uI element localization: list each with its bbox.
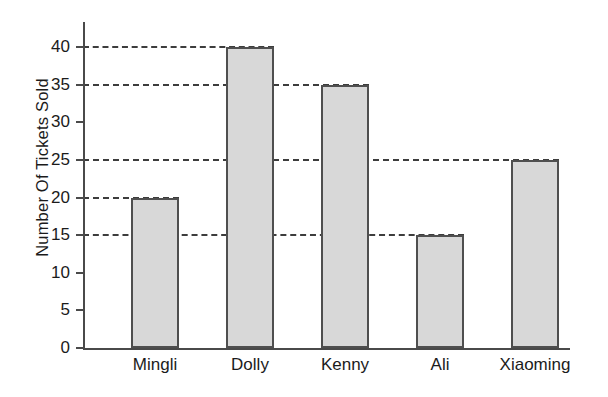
y-tick-label: 15 [26,226,70,243]
y-tick-label: 30 [26,113,70,130]
y-tick-mark [76,347,85,349]
bar [131,198,179,349]
y-tick-mark [76,234,85,236]
y-tick-label: 40 [26,38,70,55]
bar [321,85,369,348]
y-tick-label: 25 [26,151,70,168]
plot-area: Number Of Tickets Sold 4035302520151050 … [0,0,608,397]
y-tick-mark [76,84,85,86]
x-axis-category-label: Xiaoming [475,356,595,373]
y-tick-mark [76,121,85,123]
y-tick-label: 20 [26,189,70,206]
bar-chart: Number Of Tickets Sold 4035302520151050 … [0,0,608,397]
y-tick-label: 35 [26,76,70,93]
bar [416,235,464,348]
y-axis-line [83,22,85,350]
y-tick-label: 0 [26,339,70,356]
y-tick-mark [76,272,85,274]
y-tick-mark [76,46,85,48]
y-tick-label: 5 [26,301,70,318]
y-tick-mark [76,197,85,199]
bar [226,47,274,348]
y-tick-mark [76,159,85,161]
y-tick-mark [76,309,85,311]
bar [511,160,559,348]
y-tick-label: 10 [26,264,70,281]
x-axis-line [83,348,570,350]
